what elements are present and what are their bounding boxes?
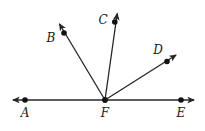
point-dot-c xyxy=(112,19,118,25)
ray-FB xyxy=(60,24,106,100)
point-dot-f xyxy=(102,97,108,103)
geometry-canvas: A B C D E F xyxy=(0,0,205,131)
point-dot-b xyxy=(61,30,67,36)
point-dot-e xyxy=(178,97,184,103)
point-dot-a xyxy=(22,97,28,103)
point-label-f: F xyxy=(100,106,110,120)
point-label-b: B xyxy=(46,31,56,45)
point-dot-d xyxy=(164,59,170,65)
geometry-diagram: A B C D E F xyxy=(0,0,205,131)
point-label-d: D xyxy=(152,43,163,57)
point-label-a: A xyxy=(20,106,30,120)
point-label-e: E xyxy=(176,106,186,120)
point-label-c: C xyxy=(98,13,107,27)
